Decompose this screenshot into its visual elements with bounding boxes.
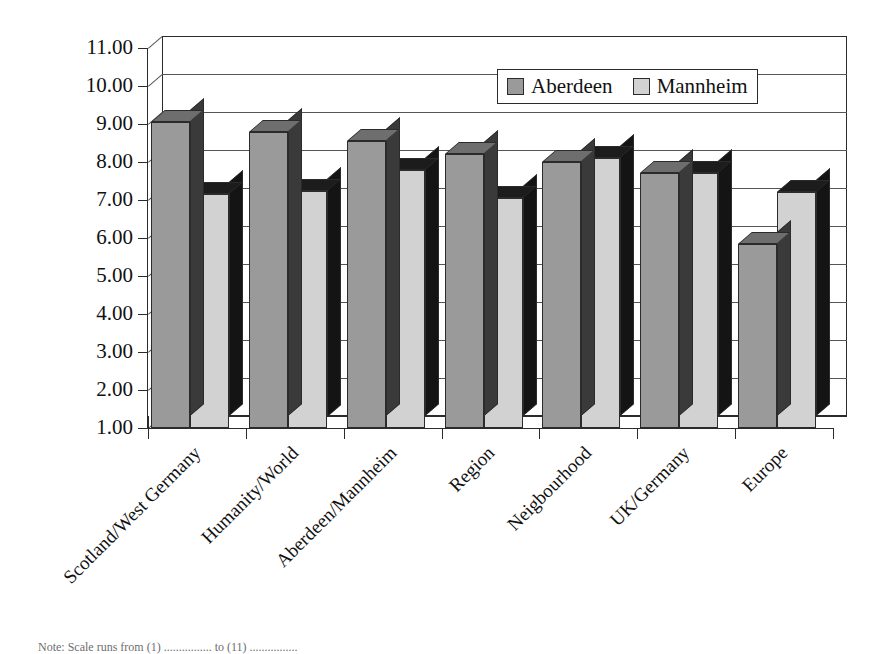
y-axis-tick-label: 9.00 bbox=[55, 113, 133, 134]
x-axis-tick bbox=[735, 428, 736, 439]
bar-side-face bbox=[581, 150, 595, 416]
bar-side-face bbox=[190, 110, 204, 416]
x-axis-tick bbox=[246, 428, 247, 439]
bar-side-face bbox=[327, 179, 341, 417]
x-axis-tick bbox=[833, 428, 834, 439]
bar-side-face bbox=[523, 186, 537, 416]
y-axis-tick-label: 3.00 bbox=[55, 341, 133, 362]
dark-gray-swatch bbox=[507, 78, 524, 95]
bar-side-face bbox=[425, 158, 439, 416]
bar-top-face bbox=[738, 232, 777, 244]
bar-aberdeen-4 bbox=[542, 162, 581, 428]
bar-aberdeen-3 bbox=[445, 154, 484, 428]
y-axis-tick-label: 2.00 bbox=[55, 379, 133, 400]
y-axis-tick-label: 11.00 bbox=[55, 37, 133, 58]
bar-chart: 11.0010.009.008.007.006.005.004.003.002.… bbox=[0, 0, 869, 654]
x-axis-category-label: Scotland/West Germany bbox=[0, 443, 204, 654]
legend-label: Mannheim bbox=[657, 76, 748, 97]
bar-side-face bbox=[679, 161, 693, 416]
chart-legend: AberdeenMannheim bbox=[497, 69, 758, 104]
y-axis-tick-label: 8.00 bbox=[55, 151, 133, 172]
legend-entry-aberdeen: Aberdeen bbox=[507, 76, 613, 97]
y-axis-tick-label: 10.00 bbox=[55, 75, 133, 96]
wall-depth-tick bbox=[148, 36, 163, 49]
legend-entry-mannheim: Mannheim bbox=[633, 76, 748, 97]
bar-top-face bbox=[347, 129, 386, 141]
bar-aberdeen-6 bbox=[738, 244, 777, 428]
y-axis-tick-label: 5.00 bbox=[55, 265, 133, 286]
gridline bbox=[162, 112, 847, 113]
bar-front-face bbox=[249, 132, 288, 428]
y-axis-line bbox=[147, 48, 148, 428]
legend-label: Aberdeen bbox=[531, 76, 613, 97]
bar-front-face bbox=[445, 154, 484, 428]
chart-footnote: Note: Scale runs from (1) ..............… bbox=[38, 640, 298, 654]
x-axis-tick bbox=[539, 428, 540, 439]
bar-side-face bbox=[386, 129, 400, 416]
bar-side-face bbox=[816, 180, 830, 416]
bar-side-face bbox=[777, 232, 791, 416]
wall-depth-tick bbox=[148, 74, 163, 87]
bar-top-face bbox=[151, 110, 190, 122]
bar-side-face bbox=[484, 142, 498, 416]
bar-top-face bbox=[777, 180, 816, 192]
x-axis-tick bbox=[344, 428, 345, 439]
bar-aberdeen-2 bbox=[347, 141, 386, 428]
bar-front-face bbox=[151, 122, 190, 428]
bar-side-face bbox=[229, 182, 243, 416]
bar-front-face bbox=[542, 162, 581, 428]
light-gray-swatch bbox=[633, 78, 650, 95]
bar-front-face bbox=[640, 173, 679, 428]
y-axis-tick bbox=[138, 428, 148, 429]
bar-top-face bbox=[445, 142, 484, 154]
bar-front-face bbox=[347, 141, 386, 428]
bar-side-face bbox=[718, 161, 732, 416]
x-axis-tick bbox=[148, 428, 149, 439]
x-axis-line bbox=[148, 428, 833, 429]
x-axis-tick bbox=[637, 428, 638, 439]
bar-top-face bbox=[249, 120, 288, 132]
x-axis-tick bbox=[442, 428, 443, 439]
bar-top-face bbox=[640, 161, 679, 173]
bar-aberdeen-1 bbox=[249, 132, 288, 428]
bar-side-face bbox=[288, 120, 302, 416]
bar-aberdeen-0 bbox=[151, 122, 190, 428]
y-axis-tick-label: 4.00 bbox=[55, 303, 133, 324]
bar-side-face bbox=[620, 146, 634, 416]
y-axis-tick-label: 7.00 bbox=[55, 189, 133, 210]
bar-top-face bbox=[542, 150, 581, 162]
bar-aberdeen-5 bbox=[640, 173, 679, 428]
gridline bbox=[162, 36, 847, 37]
y-axis-tick-label: 6.00 bbox=[55, 227, 133, 248]
bar-front-face bbox=[738, 244, 777, 428]
y-axis-tick-label: 1.00 bbox=[55, 417, 133, 438]
